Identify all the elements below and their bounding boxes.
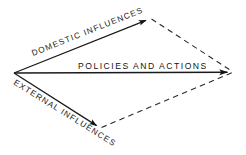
- policies-and-actions-label: POLICIES AND ACTIONS: [78, 61, 208, 71]
- external-influences-vector: [14, 73, 97, 126]
- lower-dashed-construction-line: [102, 73, 233, 128]
- diagram-canvas: DOMESTIC INFLUENCES EXTERNAL INFLUENCES …: [0, 0, 246, 155]
- domestic-influences-label: DOMESTIC INFLUENCES: [30, 6, 144, 58]
- policies-and-actions-vector: [14, 72, 228, 73]
- influences-parallelogram-diagram: DOMESTIC INFLUENCES EXTERNAL INFLUENCES …: [0, 0, 246, 155]
- external-influences-label: EXTERNAL INFLUENCES: [12, 78, 118, 148]
